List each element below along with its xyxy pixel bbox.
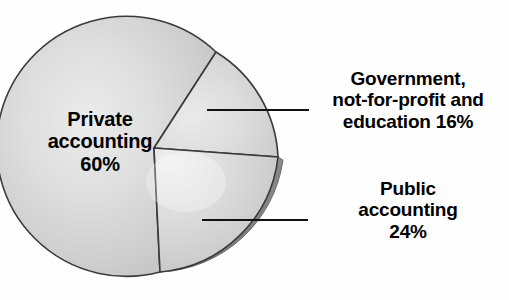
slice-label-public-accounting: Public accounting 24%	[312, 178, 504, 242]
slice-label-private-accounting: Private accounting 60%	[30, 108, 170, 175]
slice-label-government-notforprofit-education: Government, not-for-profit and education…	[312, 68, 504, 132]
pie-chart-figure: Private accounting 60% Government, not-f…	[0, 0, 509, 300]
